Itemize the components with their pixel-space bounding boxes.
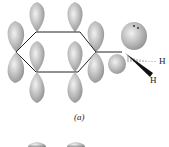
partial-second-figure xyxy=(0,0,169,147)
